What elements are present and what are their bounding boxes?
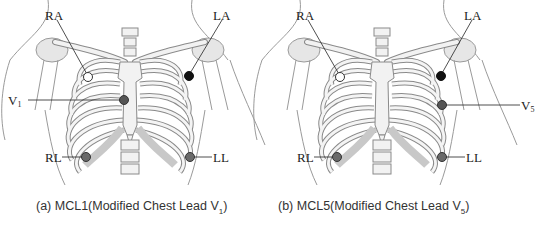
ra-electrode xyxy=(84,73,93,82)
rl-label: RL xyxy=(45,150,62,165)
v1-electrode xyxy=(120,96,129,105)
panel-a-electrodes: RA LA V1 RL LL xyxy=(8,8,231,165)
la-electrode xyxy=(437,72,446,81)
ecg-lead-diagram: RA LA V1 RL LL RA LA V5 RL LL xyxy=(0,0,541,190)
rl-electrode xyxy=(333,153,342,162)
la-label: LA xyxy=(464,8,482,23)
v5-label: V5 xyxy=(521,98,534,114)
ra-electrode xyxy=(336,73,345,82)
rl-label: RL xyxy=(297,150,314,165)
v1-label: V1 xyxy=(8,93,21,109)
caption-a: (a) MCL1(Modified Chest Lead V1) xyxy=(36,199,227,216)
v5-electrode xyxy=(438,101,447,110)
ll-label: LL xyxy=(213,150,229,165)
la-electrode xyxy=(185,72,194,81)
ll-label: LL xyxy=(466,150,482,165)
ra-label: RA xyxy=(296,8,315,23)
ll-electrode xyxy=(438,153,447,162)
ra-label: RA xyxy=(45,8,64,23)
rl-electrode xyxy=(82,153,91,162)
ll-electrode xyxy=(186,153,195,162)
la-label: LA xyxy=(213,8,231,23)
caption-b: (b) MCL5(Modified Chest Lead V5) xyxy=(278,199,469,216)
